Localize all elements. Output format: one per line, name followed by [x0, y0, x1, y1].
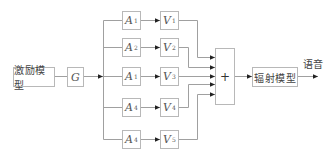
radiation-model-block: 辐射模型	[252, 67, 298, 87]
amplitude-subscript: 4	[134, 136, 138, 143]
resonator-symbol: V	[163, 101, 171, 114]
plus-sign: +	[220, 70, 230, 84]
amplitude-block-5: A4	[122, 130, 141, 149]
resonator-subscript: 5	[172, 136, 176, 143]
gain-block: G	[67, 67, 84, 87]
amplitude-symbol: A	[125, 101, 133, 114]
resonator-block-2: V2	[160, 38, 179, 57]
amplitude-symbol: A	[125, 133, 133, 146]
excitation-model-block: 激励模型	[13, 67, 55, 87]
resonator-subscript: 1	[172, 17, 176, 24]
amplitude-block-4: A4	[122, 98, 141, 117]
amplitude-block-2: A2	[122, 38, 141, 57]
amplitude-subscript: 2	[134, 44, 138, 51]
amplitude-subscript: 1	[134, 17, 138, 24]
resonator-block-3: V3	[160, 67, 179, 86]
resonator-subscript: 4	[172, 104, 176, 111]
resonator-subscript: 2	[172, 44, 176, 51]
resonator-symbol: V	[163, 41, 171, 54]
amplitude-block-1: A1	[122, 11, 141, 30]
amplitude-block-3: A1	[122, 67, 141, 86]
amplitude-subscript: 4	[134, 104, 138, 111]
excitation-model-label: 激励模型	[14, 62, 54, 92]
resonator-block-5: V5	[160, 130, 179, 149]
amplitude-symbol: A	[125, 14, 133, 27]
summation-block: +	[215, 48, 235, 105]
amplitude-symbol: A	[125, 70, 133, 83]
resonator-block-1: V1	[160, 11, 179, 30]
resonator-subscript: 3	[172, 73, 176, 80]
radiation-model-label: 辐射模型	[254, 70, 296, 85]
amplitude-subscript: 1	[134, 73, 138, 80]
resonator-symbol: V	[163, 14, 171, 27]
resonator-symbol: V	[163, 70, 171, 83]
resonator-block-4: V4	[160, 98, 179, 117]
speech-output-label: 语音	[303, 56, 323, 71]
gain-label: G	[71, 71, 80, 84]
resonator-symbol: V	[163, 133, 171, 146]
amplitude-symbol: A	[125, 41, 133, 54]
